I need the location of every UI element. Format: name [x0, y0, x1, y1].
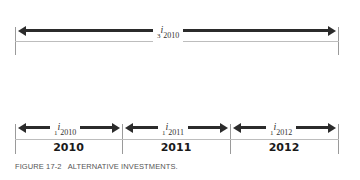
segment-2012-label: 1i2012 [266, 121, 296, 139]
segment-2011-subscript: 2011 [168, 128, 184, 137]
segment-2010-label: 1i2010 [50, 121, 80, 139]
segment-2011-label: 1i2011 [158, 121, 188, 139]
top-span-label: 3i2010 [153, 24, 183, 42]
year-label-2012: 2012 [230, 141, 338, 155]
year-label-2010: 2010 [15, 141, 122, 155]
top-span-subscript: 2010 [163, 31, 179, 40]
figure-caption: FIGURE 17-2 ALTERNATIVE INVESTMENTS. [15, 162, 178, 171]
segment-2012-subscript: 2012 [276, 128, 292, 137]
segments-baseline [15, 139, 339, 140]
segment-2010-subscript: 2010 [60, 128, 76, 137]
year-label-2011: 2011 [122, 141, 230, 155]
